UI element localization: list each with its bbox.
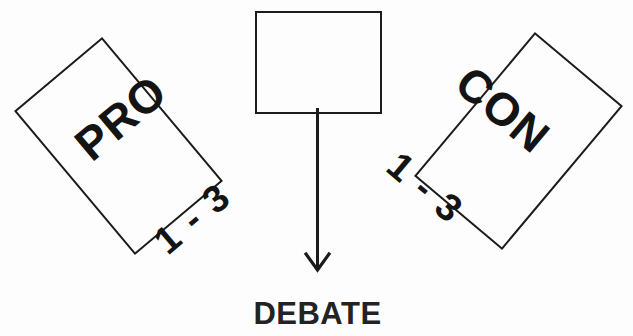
- down-arrow-icon: [296, 108, 340, 278]
- debate-caption: DEBATE: [1, 296, 633, 332]
- diagram-canvas: PRO 1 - 3 CON 1 - 3 DEBATE: [0, 0, 633, 336]
- center-box: [255, 11, 382, 114]
